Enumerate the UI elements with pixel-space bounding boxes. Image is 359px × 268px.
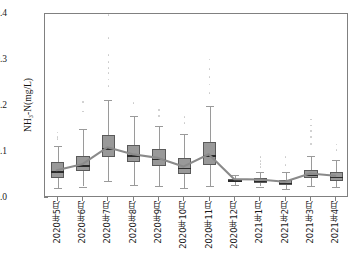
y-tick-label: 0.2 xyxy=(0,100,7,110)
whisker-cap xyxy=(206,106,214,107)
x-tick-label: 2021年3月 xyxy=(304,201,316,243)
outlier-point xyxy=(108,67,110,69)
outlier-point xyxy=(260,163,262,165)
whisker-cap xyxy=(155,126,163,127)
outlier-point xyxy=(260,166,262,168)
outlier-point xyxy=(158,109,160,111)
outlier-point xyxy=(209,68,211,70)
median-line xyxy=(279,183,292,185)
whisker-cap xyxy=(155,186,163,187)
box xyxy=(51,162,64,178)
outlier-point xyxy=(108,72,110,74)
whisker-cap xyxy=(180,188,188,189)
outlier-point xyxy=(285,164,287,166)
outlier-point xyxy=(57,132,59,134)
x-tick-label: 2020年6月 xyxy=(76,201,88,243)
box xyxy=(203,142,216,165)
whisker-cap xyxy=(104,100,112,101)
outlier-point xyxy=(260,156,262,158)
outlier-point xyxy=(336,144,338,146)
median-line xyxy=(254,181,267,183)
box xyxy=(152,149,165,166)
y-tick-label: 0.4 xyxy=(0,8,7,18)
outlier-point xyxy=(285,156,287,158)
median-line xyxy=(51,171,64,173)
outlier-point xyxy=(184,122,186,124)
outlier-point xyxy=(260,160,262,162)
whisker-cap xyxy=(79,187,87,188)
whisker-cap xyxy=(307,186,315,187)
y-tick-label: 0.3 xyxy=(0,54,7,64)
y-tick-mark xyxy=(44,197,48,198)
boxplot-chart: NH₃-N(mg/L) 0.00.10.20.30.4 2020年5月2020年… xyxy=(0,0,359,268)
whisker-cap xyxy=(282,172,290,173)
outlier-point xyxy=(108,61,110,63)
median-line xyxy=(178,168,191,170)
x-tick-label: 2020年5月 xyxy=(51,201,63,243)
whisker-cap xyxy=(54,188,62,189)
whisker-cap xyxy=(180,134,188,135)
box xyxy=(178,158,191,174)
outlier-point xyxy=(108,14,110,16)
outlier-point xyxy=(310,143,312,145)
outlier-point xyxy=(336,149,338,151)
whisker-cap xyxy=(256,172,264,173)
plot-area xyxy=(44,13,348,197)
x-tick-label: 2020年8月 xyxy=(127,201,139,243)
median-line xyxy=(304,175,317,177)
median-line xyxy=(203,155,216,157)
x-tick-label: 2020年7月 xyxy=(101,201,113,243)
x-tick-label: 2020年9月 xyxy=(152,201,164,243)
outlier-point xyxy=(158,115,160,117)
outlier-point xyxy=(108,54,110,56)
whisker-cap xyxy=(54,146,62,147)
whisker-cap xyxy=(104,181,112,182)
x-tick-label: 2021年2月 xyxy=(279,201,291,243)
outlier-point xyxy=(310,130,312,132)
outlier-point xyxy=(82,111,84,113)
whisker-cap xyxy=(231,185,239,186)
outlier-point xyxy=(57,138,59,140)
whisker-cap xyxy=(256,187,264,188)
whisker-cap xyxy=(79,129,87,130)
box xyxy=(76,156,89,171)
outlier-point xyxy=(310,125,312,127)
outlier-point xyxy=(82,101,84,103)
median-line xyxy=(228,180,241,182)
median-line xyxy=(127,155,140,157)
whisker-cap xyxy=(206,186,214,187)
whisker-cap xyxy=(130,116,138,117)
outlier-point xyxy=(184,116,186,118)
median-line xyxy=(102,148,115,150)
outlier-point xyxy=(108,37,110,39)
x-tick-label: 2020年10月 xyxy=(177,201,189,249)
whisker-cap xyxy=(231,175,239,176)
x-tick-label: 2020年11月 xyxy=(203,201,215,249)
outlier-point xyxy=(108,85,110,87)
median-line xyxy=(330,177,343,179)
x-tick-label: 2021年1月 xyxy=(253,201,265,243)
whisker-cap xyxy=(332,160,340,161)
median-line xyxy=(76,165,89,167)
outlier-point xyxy=(209,59,211,61)
outlier-point xyxy=(209,84,211,86)
outlier-point xyxy=(310,136,312,138)
outlier-point xyxy=(133,102,135,104)
y-tick-label: 0.1 xyxy=(0,146,7,156)
x-tick-label: 2021年4月 xyxy=(329,201,341,243)
outlier-point xyxy=(108,79,110,81)
whisker-cap xyxy=(130,185,138,186)
whisker-cap xyxy=(282,189,290,190)
median-line xyxy=(152,159,165,161)
y-tick-label: 0.0 xyxy=(0,192,7,202)
whisker-cap xyxy=(307,156,315,157)
y-axis-title: NH₃-N(mg/L) xyxy=(23,78,33,132)
whisker-cap xyxy=(332,187,340,188)
outlier-point xyxy=(310,119,312,121)
box xyxy=(102,135,115,157)
outlier-point xyxy=(57,136,59,138)
outlier-point xyxy=(209,76,211,78)
outlier-point xyxy=(209,92,211,94)
box xyxy=(127,145,140,162)
x-tick-label: 2020年12月 xyxy=(228,201,240,249)
